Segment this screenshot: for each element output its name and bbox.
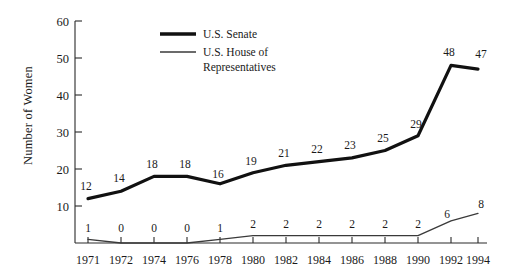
y-tick-label: 20 [57,163,70,177]
data-label: 2 [415,218,421,230]
x-tick-label: 1974 [142,253,166,267]
data-label: 6 [444,208,450,220]
y-tick-label: 60 [57,15,70,29]
data-label: 2 [316,218,322,230]
data-label: 18 [146,158,158,170]
data-label: 18 [179,158,191,170]
data-label: 1 [85,222,91,234]
data-label: 48 [443,46,455,58]
data-label: 16 [212,168,224,180]
data-label: 47 [475,48,487,60]
data-label: 2 [382,218,388,230]
chart-container: Number of Women [0,0,505,279]
legend: U.S. Senate U.S. House of Representative… [203,28,276,74]
x-tick-label: 1982 [274,253,298,267]
x-tick-label: 1992 [439,253,463,267]
x-tick-label: 1994 [466,253,490,267]
data-label: 14 [113,172,125,184]
chart-canvas: 60 50 40 30 20 10 1971 1972 1974 1976 19… [0,0,505,279]
data-label: 2 [250,218,256,230]
data-label: 12 [80,180,92,192]
data-label: 1 [217,222,223,234]
data-label: 23 [344,139,356,151]
x-tick-labels: 1971 1972 1974 1976 1978 1980 1982 1984 … [76,253,490,267]
x-tick-label: 1980 [241,253,265,267]
y-tick-label: 50 [57,52,70,66]
data-label: 25 [377,132,389,144]
x-tick-marks [88,237,478,243]
y-tick-labels: 60 50 40 30 20 10 [57,15,70,214]
data-label: 0 [151,222,157,234]
data-label: 0 [184,222,190,234]
data-label: 29 [410,118,422,130]
x-tick-label: 1978 [208,253,232,267]
legend-label-house-line1: U.S. House of [203,46,268,58]
data-label: 8 [478,198,484,210]
x-tick-label: 1984 [307,253,331,267]
data-label: 2 [349,218,355,230]
legend-label-senate: U.S. Senate [203,28,257,40]
data-label: 22 [311,143,323,155]
x-tick-label: 1988 [373,253,397,267]
data-label: 2 [283,218,289,230]
x-tick-label: 1976 [175,253,199,267]
x-tick-label: 1971 [76,253,100,267]
data-label: 0 [118,222,124,234]
y-tick-marks [75,21,82,206]
y-tick-label: 10 [57,200,70,214]
y-tick-label: 30 [57,126,70,140]
data-label: 19 [245,155,257,167]
x-tick-label: 1972 [109,253,133,267]
legend-label-house-line2: Representatives [203,61,276,74]
y-tick-label: 40 [57,89,70,103]
x-tick-label: 1986 [340,253,364,267]
data-label: 21 [278,147,290,159]
series-line-senate [88,65,478,198]
x-tick-label: 1990 [406,253,430,267]
data-labels-house: 1 0 0 0 1 2 2 2 2 2 2 6 8 [85,198,484,234]
